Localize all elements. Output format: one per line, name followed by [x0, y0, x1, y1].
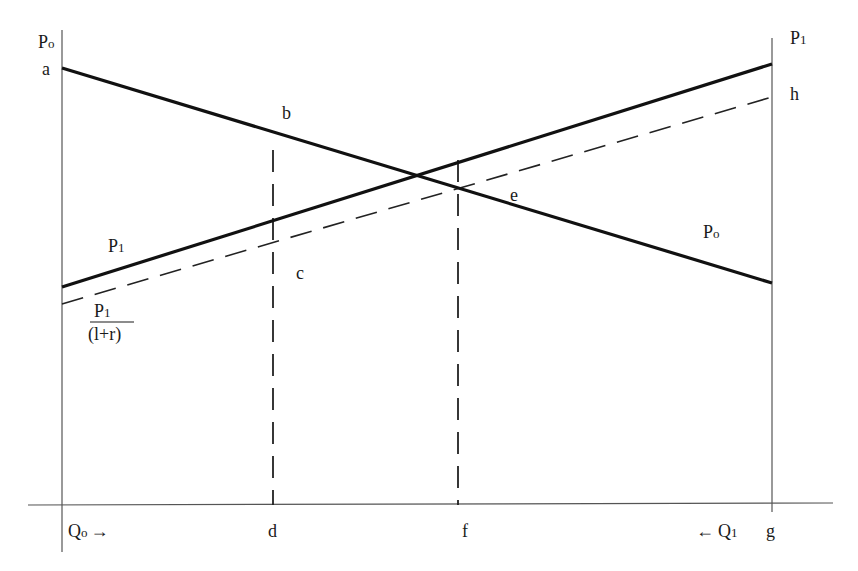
- point-label-d: d: [268, 521, 277, 541]
- point-label-e: e: [510, 185, 518, 205]
- allocation-diagram: Po P1 a b c e h Po P1 P1 (l+r) Qo→ d f ←…: [0, 0, 858, 571]
- left-arrow-icon: ←: [696, 521, 714, 541]
- horizontal-axis: [28, 503, 833, 505]
- point-label-b: b: [282, 103, 291, 123]
- q0-axis-label: Qo→: [68, 521, 109, 541]
- fraction-numerator: P1: [94, 301, 111, 321]
- discounted-p1-line: [62, 97, 772, 304]
- right-axis-label: P1: [790, 28, 807, 48]
- fraction-denominator: (l+r): [88, 324, 121, 345]
- p0-curve-label: Po: [703, 222, 720, 242]
- q1-axis-label: ←Q1: [696, 521, 738, 541]
- point-label-f: f: [462, 521, 468, 541]
- point-label-c: c: [296, 263, 304, 283]
- left-axis-label: Po: [38, 32, 55, 52]
- right-arrow-icon: →: [91, 521, 109, 541]
- point-label-g: g: [766, 521, 775, 541]
- discounted-price-fraction: P1 (l+r): [88, 301, 134, 345]
- p1-curve-label: P1: [108, 236, 125, 256]
- point-label-h: h: [790, 84, 799, 104]
- point-label-a: a: [42, 59, 50, 79]
- p1-line: [62, 64, 772, 287]
